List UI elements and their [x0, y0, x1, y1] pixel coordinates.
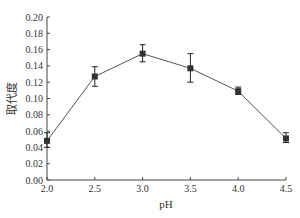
data-point-marker: [44, 138, 50, 144]
axes: 0.000.020.040.060.080.100.120.140.160.18…: [26, 12, 293, 195]
y-tick-label: 0.12: [26, 77, 44, 88]
data-point-marker: [92, 73, 98, 79]
y-tick-label: 0.18: [26, 28, 44, 39]
y-tick-label: 0.10: [26, 93, 44, 104]
x-tick-label: 3.5: [184, 183, 197, 194]
data-point-marker: [235, 88, 241, 94]
y-tick-label: 0.08: [26, 109, 44, 120]
y-tick-label: 0.16: [26, 44, 44, 55]
data-point-marker: [283, 135, 289, 141]
y-tick-label: 0.02: [26, 158, 44, 169]
series-line: [47, 54, 286, 141]
y-tick-label: 0.20: [26, 12, 44, 23]
data-point-marker: [140, 51, 146, 57]
x-axis-label: pH: [159, 198, 173, 210]
y-axis-label: 取代度: [5, 82, 18, 115]
x-tick-label: 4.5: [280, 183, 293, 194]
plot-area: [44, 45, 289, 148]
y-tick-label: 0.04: [26, 142, 44, 153]
x-tick-label: 2.5: [89, 183, 102, 194]
data-point-marker: [187, 65, 193, 71]
x-tick-label: 4.0: [232, 183, 245, 194]
x-tick-label: 3.0: [136, 183, 149, 194]
x-tick-label: 2.0: [41, 183, 54, 194]
y-tick-label: 0.14: [26, 60, 44, 71]
y-tick-label: 0.06: [26, 126, 44, 137]
line-chart: 0.000.020.040.060.080.100.120.140.160.18…: [0, 0, 300, 218]
